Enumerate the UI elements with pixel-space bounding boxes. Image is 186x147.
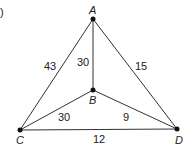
weight-a-d: 15 bbox=[135, 60, 147, 72]
edges bbox=[20, 19, 177, 130]
vertex-d bbox=[175, 127, 180, 132]
weight-a-c: 43 bbox=[44, 60, 56, 72]
edge-a-c bbox=[20, 19, 93, 130]
edge-b-c bbox=[20, 90, 93, 130]
vertex-label-b: B bbox=[89, 94, 96, 106]
vertices bbox=[18, 17, 180, 133]
vertex-label-a: A bbox=[88, 4, 96, 16]
edge-c-d bbox=[20, 129, 177, 130]
weighted-graph: ) A B C D 43 30 15 30 9 12 bbox=[0, 0, 186, 147]
weight-a-b: 30 bbox=[77, 56, 89, 68]
vertex-b bbox=[91, 88, 96, 93]
vertex-a bbox=[91, 17, 96, 22]
weight-c-d: 12 bbox=[93, 133, 105, 145]
edge-b-d bbox=[93, 90, 177, 129]
weight-b-c: 30 bbox=[58, 111, 70, 123]
vertex-label-c: C bbox=[16, 134, 24, 146]
vertex-c bbox=[18, 128, 23, 133]
figure-marker: ) bbox=[0, 6, 4, 18]
vertex-label-d: D bbox=[175, 134, 183, 146]
edge-a-d bbox=[93, 19, 177, 129]
weight-b-d: 9 bbox=[123, 111, 129, 123]
